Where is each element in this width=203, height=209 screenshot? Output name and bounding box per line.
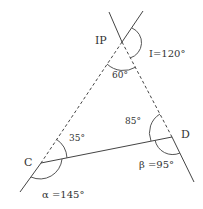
label-angle-i: I=120° — [149, 48, 185, 59]
geometry-diagram: IP I=120° 60° 35° 85° C D α =145° β =95° — [0, 0, 203, 209]
line-ip-c-upper — [122, 11, 143, 42]
label-alpha: α =145° — [42, 189, 84, 200]
label-ip: IP — [95, 34, 107, 47]
arc-angle-i — [130, 28, 142, 58]
line-ip-d-upper — [109, 12, 122, 42]
line-ip-c-dashed — [41, 42, 122, 163]
label-angle-85: 85° — [125, 116, 141, 126]
arc-angle-c-interior — [56, 139, 67, 158]
label-point-c: C — [24, 156, 32, 169]
arc-angle-d-interior — [149, 114, 160, 141]
label-angle-35: 35° — [69, 133, 85, 143]
label-angle-60: 60° — [112, 70, 128, 80]
label-point-d: D — [181, 128, 190, 141]
arc-angle-beta — [155, 140, 180, 155]
label-beta: β =95° — [139, 159, 174, 170]
line-d-extension — [172, 137, 194, 182]
